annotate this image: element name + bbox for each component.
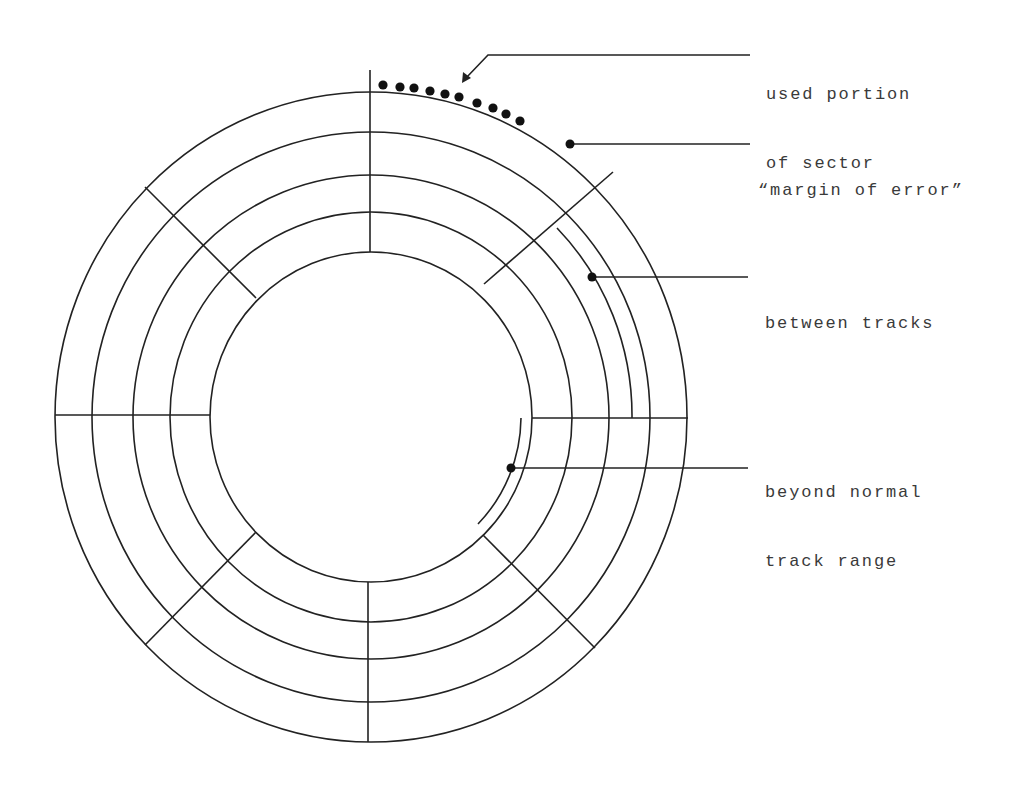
sector-divider-6 <box>483 535 595 648</box>
label-between-tracks: between tracks <box>765 266 934 358</box>
track-circle-4 <box>170 212 572 622</box>
label-line: “margin of error” <box>758 179 964 202</box>
label-line: used portion <box>766 83 911 106</box>
label-line: beyond normal <box>765 481 922 504</box>
label-line: track range <box>765 550 922 573</box>
label-beyond-track-range: beyond normal track range <box>765 435 922 596</box>
used-portion-leader <box>466 55 750 78</box>
between-tracks-arc <box>557 228 632 418</box>
label-line: between tracks <box>765 312 934 335</box>
used-data-dot <box>378 80 387 89</box>
beyond-track-range-arc <box>478 418 521 524</box>
margin-of-error-dot <box>566 140 575 149</box>
beyond-track-range-dot <box>507 464 516 473</box>
sector-divider-4 <box>145 532 256 645</box>
used-data-dot <box>488 103 497 112</box>
used-data-dot <box>425 86 434 95</box>
between-tracks-dot <box>588 273 597 282</box>
sector-divider-8 <box>484 172 613 284</box>
used-data-dot <box>472 98 481 107</box>
sector-divider-2 <box>145 187 256 298</box>
used-data-dot <box>515 116 524 125</box>
used-data-dot <box>454 92 463 101</box>
used-data-dot <box>409 83 418 92</box>
track-circle-3 <box>133 175 609 659</box>
label-margin-of-error: “margin of error” <box>758 133 964 225</box>
used-data-dot <box>501 109 510 118</box>
track-circle-5 <box>210 252 532 582</box>
special-areas <box>478 228 632 524</box>
sector-dividers <box>55 70 688 742</box>
used-data-dot <box>440 89 449 98</box>
used-data-dot <box>395 82 404 91</box>
